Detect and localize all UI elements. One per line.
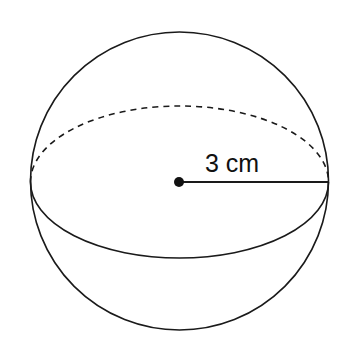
center-point — [174, 177, 184, 187]
radius-label: 3 cm — [205, 149, 259, 177]
equator-back-dashed — [31, 106, 329, 182]
equator-front — [31, 182, 329, 258]
sphere-figure: 3 cm — [0, 0, 349, 358]
sphere-diagram: 3 cm — [0, 0, 349, 358]
